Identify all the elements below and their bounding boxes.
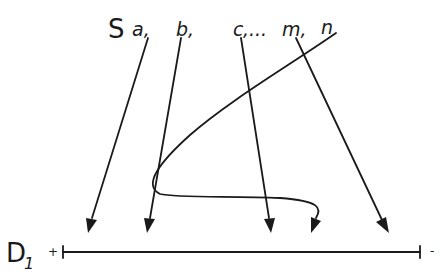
arrowhead-m-icon xyxy=(376,217,389,233)
source-label-b: b, xyxy=(176,20,194,39)
source-label-m: m, xyxy=(282,20,307,39)
source-label-ellipsis: ,... xyxy=(243,20,267,39)
arrow-a xyxy=(92,38,148,218)
arrowhead-a-icon xyxy=(86,218,97,233)
arrowhead-b-icon xyxy=(144,218,155,233)
source-symbol: S xyxy=(108,16,125,42)
mapping-diagram xyxy=(0,0,444,278)
arrow-c xyxy=(241,38,269,218)
source-label-c: c xyxy=(233,20,243,39)
arrow-m xyxy=(296,38,382,220)
arrowhead-n-icon xyxy=(311,217,321,233)
target-subscript: 1 xyxy=(24,256,34,272)
minus-polarity: - xyxy=(430,245,434,257)
source-label-a: a, xyxy=(132,20,150,39)
plus-polarity: + xyxy=(48,246,58,258)
arrowhead-c-icon xyxy=(264,218,275,233)
source-label-n: n xyxy=(321,18,333,37)
